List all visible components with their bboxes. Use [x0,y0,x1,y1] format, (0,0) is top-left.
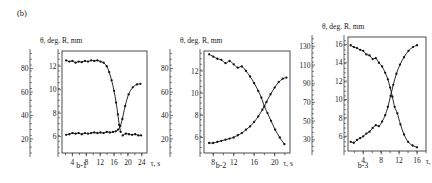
data-point [125,133,127,135]
plot-frame [62,51,147,153]
data-point [128,133,130,135]
data-point [365,53,367,55]
theta-axis-tick-label: 60 [21,88,29,97]
data-point [273,86,275,88]
series-curve [351,45,417,147]
data-point [396,112,398,114]
data-point [353,142,355,144]
data-point [119,125,121,127]
data-point [96,132,98,134]
data-point [387,78,389,80]
data-point [106,131,108,133]
data-point [81,133,83,135]
data-point [224,139,226,141]
data-point [87,60,89,62]
data-point [68,60,70,62]
data-point [117,128,119,130]
theta-axis-tick-label: 110 [300,61,311,70]
data-point [113,90,115,92]
data-point [365,132,367,134]
data-point [399,63,401,65]
theta-axis-tick-label: 50 [303,117,311,126]
data-point [407,50,409,52]
data-point [228,60,230,62]
axis-title-b-2: θ, deg. R, mm [180,36,222,45]
data-point [359,137,361,139]
panel-label: (b) [17,8,27,18]
data-point [378,125,380,127]
data-point [384,114,386,116]
data-point [353,46,355,48]
plot-frame [204,51,290,153]
data-point [237,134,239,136]
r-axis-tick-label: 16 [335,40,343,49]
data-point [274,129,276,131]
data-point [412,46,414,48]
axis-title-b-1: θ, deg. R, mm [40,36,82,45]
data-point [350,44,352,46]
theta-axis-tick-label: 40 [161,111,169,120]
plot-area-b-2: 681012204060808121620τ, s [148,47,294,175]
data-point [99,131,101,133]
data-point [266,112,268,114]
data-point [119,131,121,133]
data-point [109,131,111,133]
axis-title-b-3: θ, deg. R, mm [322,22,364,31]
data-point [261,109,263,111]
data-point [137,134,139,136]
data-point [208,142,210,144]
theta-axis-tick-label: 20 [161,135,169,144]
data-point [102,132,104,134]
chart-b-3: θ, deg. R, mm 68101214163050709011013048… [294,22,432,177]
data-point [99,60,101,62]
data-point [283,143,285,145]
data-point [399,123,401,125]
data-point [265,101,267,103]
r-axis-tick-label: 8 [339,114,343,123]
data-point [362,50,364,52]
data-point [93,60,95,62]
data-point [212,55,214,57]
r-axis-tick-label: 12 [49,62,57,71]
data-point [117,113,119,115]
data-point [368,131,370,133]
data-point [220,140,222,142]
data-point [106,65,108,67]
r-axis-tick-label: 6 [195,133,199,142]
data-point [68,133,70,135]
data-point [389,86,391,88]
theta-axis-tick-label: 80 [161,64,169,73]
data-point [121,118,123,120]
data-point [224,62,226,64]
chart-b-1: θ, deg. R, mm 681012204060804812162024τ,… [14,36,149,176]
data-point [241,132,243,134]
data-point [233,136,235,138]
data-point [375,124,377,126]
theta-axis-tick-label: 70 [303,98,311,107]
r-axis-tick-label: 14 [335,58,343,67]
data-point [139,83,141,85]
data-point [285,76,287,78]
figure-b: (b) θ, deg. R, mm 6810122040608048121620… [0,0,432,183]
data-point [356,139,358,141]
data-point [90,59,92,61]
data-point [381,120,383,122]
data-point [93,131,95,133]
theta-axis-tick-label: 20 [21,135,29,144]
data-point [115,101,117,103]
data-point [253,82,255,84]
data-point [257,115,259,117]
data-point [71,132,73,134]
data-point [381,65,383,67]
data-point [127,93,129,95]
data-point [245,129,247,131]
data-point [403,133,405,135]
data-point [74,62,76,64]
data-point [216,58,218,60]
data-point [237,66,239,68]
data-point [122,134,124,136]
series-curve [66,84,140,135]
data-point [87,133,89,135]
data-point [84,132,86,134]
sublabel-b-2: b-2 [148,161,294,170]
